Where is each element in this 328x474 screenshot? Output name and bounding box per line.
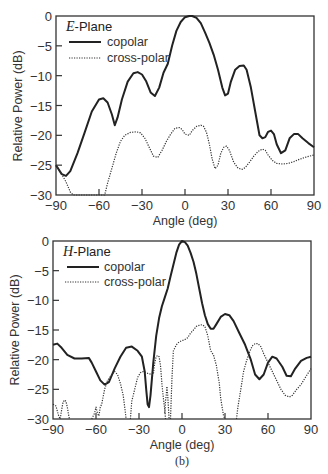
h-plane-chart: 0−5−10−15−20−25−30 −90−60−300306090 H-Pl… — [8, 234, 318, 468]
figure: 0−5−10−15−20−25−30 −90−60−300306090 E-Pl… — [0, 0, 328, 474]
y-axis-title: Relative Power (dB) — [8, 274, 22, 385]
x-tick-label: −90 — [42, 422, 64, 437]
x-tick-label: −90 — [45, 198, 67, 213]
x-tick-label: −60 — [88, 198, 110, 213]
figure-caption: (b) — [175, 454, 189, 468]
cross-polar-line — [53, 400, 70, 419]
legend-crosspolar-label: cross-polar — [104, 275, 166, 289]
plane-title: H-Plane — [62, 244, 111, 259]
y-tick-label: 0 — [45, 9, 52, 24]
copolar-line — [56, 16, 314, 176]
x-tick-label: 90 — [307, 198, 321, 213]
y-axis-ticks: 0−5−10−15−20−25−30 — [30, 9, 62, 203]
x-axis-ticks: −90−60−300306090 — [42, 413, 318, 437]
cross-polar-line — [130, 356, 165, 420]
x-tick-label: 0 — [178, 422, 185, 437]
x-tick-label: 30 — [221, 198, 235, 213]
y-tick-label: −10 — [30, 69, 52, 84]
x-tick-label: −30 — [128, 422, 150, 437]
y-tick-label: −20 — [27, 353, 49, 368]
legend-copolar-label: copolar — [107, 35, 148, 49]
y-tick-label: −25 — [27, 382, 49, 397]
x-tick-label: −60 — [85, 422, 107, 437]
x-axis-title: Angle (deg) — [153, 214, 218, 228]
x-tick-label: 30 — [218, 422, 232, 437]
y-tick-label: −20 — [30, 128, 52, 143]
copolar-line — [53, 241, 311, 407]
cross-polar-line — [237, 344, 312, 419]
x-tick-label: 60 — [264, 198, 278, 213]
x-axis-ticks: −90−60−300306090 — [45, 189, 321, 213]
cross-polar-line — [92, 372, 126, 420]
x-tick-label: 90 — [304, 422, 318, 437]
y-tick-label: −15 — [30, 99, 52, 114]
y-axis-ticks: 0−5−10−15−20−25−30 — [27, 234, 59, 427]
plane-title: E-Plane — [65, 19, 112, 34]
legend-crosspolar-label: cross-polar — [107, 51, 169, 65]
x-axis-title: Angle (deg) — [150, 438, 215, 452]
e-plane-chart: 0−5−10−15−20−25−30 −90−60−300306090 E-Pl… — [11, 9, 321, 228]
y-axis-title: Relative Power (dB) — [11, 50, 25, 161]
y-tick-label: −15 — [27, 323, 49, 338]
cross-polar-line — [171, 325, 226, 419]
x-tick-label: 0 — [181, 198, 188, 213]
y-tick-label: −5 — [37, 39, 52, 54]
x-tick-label: −30 — [131, 198, 153, 213]
x-tick-label: 60 — [261, 422, 275, 437]
y-tick-label: 0 — [42, 234, 49, 249]
y-tick-label: −25 — [30, 158, 52, 173]
legend-copolar-label: copolar — [104, 260, 145, 274]
y-tick-label: −10 — [27, 293, 49, 308]
y-tick-label: −5 — [34, 264, 49, 279]
